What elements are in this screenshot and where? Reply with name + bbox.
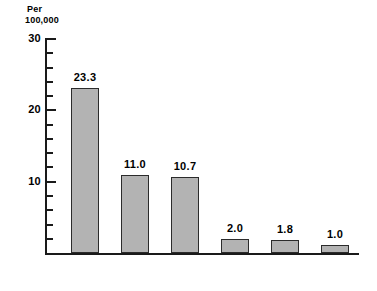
bar-japan[interactable] — [221, 239, 249, 253]
y-axis-tick-14 — [47, 152, 53, 154]
bar-column: 1.8 — [260, 38, 310, 253]
y-axis-tick-20 — [47, 109, 56, 111]
bar-us-nonwhite[interactable] — [71, 88, 99, 253]
bar-value-portugal: 11.0 — [110, 158, 160, 170]
y-axis-tick-28 — [47, 52, 53, 54]
y-axis-label-30: 30 — [17, 32, 41, 44]
bar-column: 23.3 — [60, 38, 110, 253]
y-axis-tick-6 — [47, 209, 53, 211]
bar-value-japan: 2.0 — [210, 222, 260, 234]
y-axis-tick-26 — [47, 67, 53, 69]
bar-column: 11.0 — [110, 38, 160, 253]
y-axis-tick-2 — [47, 238, 53, 240]
bar-value-denmark: 10.7 — [160, 160, 210, 172]
y-axis-caption: Per 100,000 — [25, 4, 59, 26]
bar-group-italy: 1.8 Italy — [260, 38, 310, 253]
bar-israel[interactable] — [321, 245, 349, 253]
bar-portugal[interactable] — [121, 175, 149, 253]
y-axis-tick-4 — [47, 224, 53, 226]
x-axis-line — [45, 253, 359, 255]
bar-value-italy: 1.8 — [260, 223, 310, 235]
bar-column: 1.0 — [310, 38, 360, 253]
bar-column: 2.0 — [210, 38, 260, 253]
y-axis-label-10: 10 — [17, 175, 41, 187]
y-axis-line — [45, 38, 47, 255]
y-axis-tick-10 — [47, 181, 56, 183]
bar-column: 10.7 — [160, 38, 210, 253]
bar-group-denmark: 10.7 Denmark — [160, 38, 210, 253]
bar-group-portugal: 11.0 Portugal — [110, 38, 160, 253]
bar-chart: Per 100,000 30 20 10 23.3 U.S. Nonwhite … — [0, 0, 377, 291]
bar-group-us-nonwhite: 23.3 U.S. Nonwhite — [60, 38, 110, 253]
bar-value-israel: 1.0 — [310, 228, 360, 240]
y-axis-caption-line-2: 100,000 — [25, 15, 59, 26]
y-axis-tick-24 — [47, 81, 53, 83]
y-axis-tick-8 — [47, 195, 53, 197]
y-axis-tick-22 — [47, 95, 53, 97]
y-axis-tick-30 — [47, 38, 56, 40]
y-axis-label-20: 20 — [17, 103, 41, 115]
bar-denmark[interactable] — [171, 177, 199, 253]
bar-group-israel: 1.0 Israel — [310, 38, 360, 253]
y-axis-caption-line-1: Per — [25, 4, 59, 15]
bar-group-japan: 2.0 Japan — [210, 38, 260, 253]
bar-italy[interactable] — [271, 240, 299, 253]
bar-value-us-nonwhite: 23.3 — [60, 71, 110, 83]
y-axis-tick-12 — [47, 166, 53, 168]
y-axis-tick-18 — [47, 124, 53, 126]
y-axis-tick-16 — [47, 138, 53, 140]
